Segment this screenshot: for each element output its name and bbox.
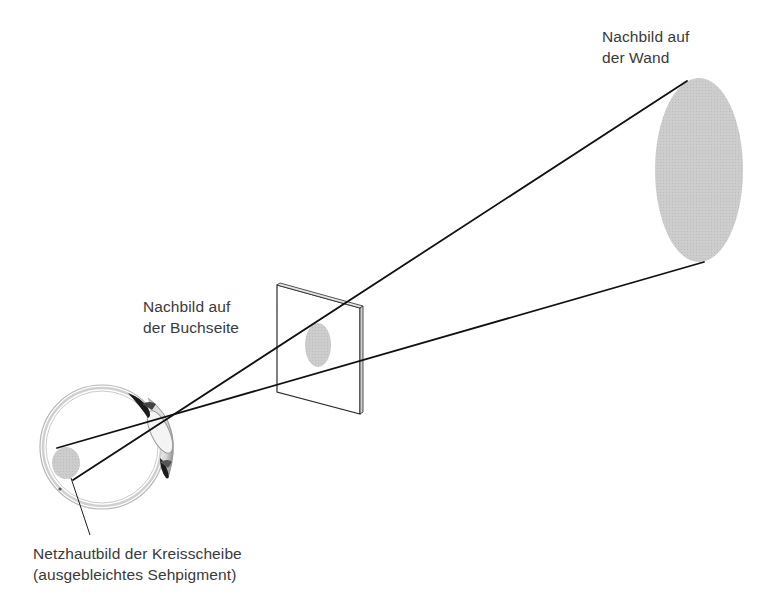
retina-label-line2: (ausgebleichtes Sehpigment) (33, 564, 242, 585)
retinal-image (52, 447, 80, 479)
ray-lower (73, 81, 687, 480)
wall-label-line2: der Wand (602, 47, 689, 68)
page-label-line2: der Buchseite (143, 317, 239, 338)
page-label-line1: Nachbild auf (143, 296, 239, 317)
wall-afterimage-label: Nachbild auf der Wand (602, 26, 689, 68)
wall-label-line1: Nachbild auf (602, 26, 689, 47)
ray-upper (57, 262, 704, 448)
projection-rays (57, 81, 704, 480)
afterimage-diagram (0, 0, 777, 611)
page-afterimage (305, 323, 331, 367)
wall-afterimage (655, 78, 743, 262)
retinal-image-label: Netzhautbild der Kreisscheibe (ausgeblei… (33, 543, 242, 585)
retina-label-line1: Netzhautbild der Kreisscheibe (33, 543, 242, 564)
page-afterimage-label: Nachbild auf der Buchseite (143, 296, 239, 338)
